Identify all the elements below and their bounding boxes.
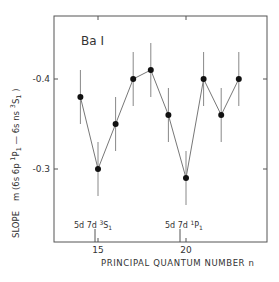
y-axis-label-slope: SLOPE bbox=[11, 211, 21, 238]
data-point bbox=[113, 121, 119, 127]
data-markers bbox=[77, 67, 241, 181]
data-point bbox=[218, 112, 224, 118]
element-label: Ba I bbox=[81, 34, 104, 48]
error-bars bbox=[80, 43, 238, 205]
perturber-label-3s1: 5d 7d 3S1 bbox=[74, 219, 112, 232]
x-tick-label: 15 bbox=[92, 245, 103, 255]
data-line bbox=[80, 70, 238, 178]
x-tick-label: 20 bbox=[180, 245, 192, 255]
data-point bbox=[183, 175, 189, 181]
data-point bbox=[236, 76, 242, 82]
y-axis-label: SLOPEm (6s 6p 1P1 — 6s ns 3S1 ) bbox=[9, 89, 23, 238]
perturber-label-1p1: 5d 7d 1P1 bbox=[165, 219, 203, 232]
x-axis-label: PRINCIPAL QUANTUM NUMBER n bbox=[101, 258, 254, 268]
data-point bbox=[77, 94, 83, 100]
y-ticks bbox=[54, 79, 267, 169]
plot-frame bbox=[54, 16, 267, 242]
data-point bbox=[201, 76, 207, 82]
chart: -0.4 -0.3 15 20 PRINCIPAL QUANTUM NUMBER… bbox=[0, 0, 279, 282]
y-tick-label: -0.3 bbox=[32, 164, 50, 174]
data-point bbox=[130, 76, 136, 82]
y-tick-label: -0.4 bbox=[32, 74, 50, 84]
svg-text:SLOPEm (6s 6p 1P1 — 6s ns 3S1: SLOPEm (6s 6p 1P1 — 6s ns 3S1 ) bbox=[9, 89, 23, 238]
data-point bbox=[95, 166, 101, 172]
data-point bbox=[148, 67, 154, 73]
data-point bbox=[165, 112, 171, 118]
